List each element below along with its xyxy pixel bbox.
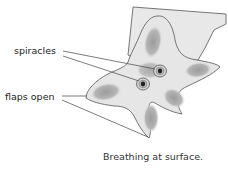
diagram-caption: Breathing at surface. [103,152,203,162]
spiracle-upper [154,65,167,77]
breathing-diagram: spiracles flaps open Breathing at surfac… [0,0,228,169]
diagram-illustration [0,0,228,169]
label-spiracles: spiracles [14,46,56,56]
spiracle-lower [137,78,150,90]
label-flaps-open: flaps open [5,92,55,102]
arm-shade-bottom [143,103,159,133]
